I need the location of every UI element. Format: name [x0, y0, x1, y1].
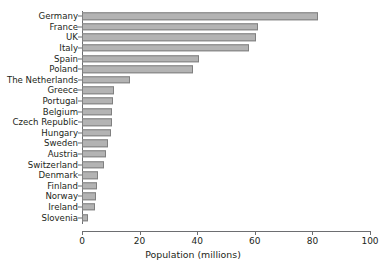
category-label: Germany	[39, 12, 79, 21]
bar	[82, 23, 258, 30]
category-label: Greece	[47, 86, 78, 95]
category-label: Finland	[47, 182, 78, 191]
bar	[82, 44, 249, 51]
bar	[82, 214, 88, 221]
x-axis-tick-label: 80	[307, 237, 318, 246]
bar-row: Denmark	[0, 170, 386, 181]
x-axis-tick	[140, 231, 141, 235]
category-label: Hungary	[41, 129, 78, 138]
bar-row: Portugal	[0, 96, 386, 107]
bar-row: Austria	[0, 149, 386, 160]
bar	[82, 55, 199, 62]
bar-row: Finland	[0, 181, 386, 192]
bar-row: The Netherlands	[0, 75, 386, 86]
bar-row: Czech Republic	[0, 117, 386, 128]
x-axis-tick-label: 40	[191, 237, 202, 246]
bar	[82, 182, 97, 189]
category-label: Denmark	[39, 171, 79, 180]
bar	[82, 172, 98, 179]
bar	[82, 66, 193, 73]
category-label: Spain	[54, 54, 78, 63]
x-axis-tick-label: 20	[134, 237, 145, 246]
category-label: Sweden	[44, 139, 78, 148]
bar	[82, 161, 104, 168]
category-label: Portugal	[42, 97, 78, 106]
category-label: Czech Republic	[13, 118, 78, 127]
bar-row: Greece	[0, 85, 386, 96]
bar	[82, 203, 95, 210]
x-axis-tick	[82, 231, 83, 235]
bar	[82, 119, 112, 126]
category-label: UK	[66, 33, 78, 42]
bar-row: Sweden	[0, 138, 386, 149]
x-axis-tick	[197, 231, 198, 235]
bar	[82, 34, 256, 41]
bar-row: Hungary	[0, 128, 386, 139]
category-label: Switzerland	[28, 160, 78, 169]
bar-row: Italy	[0, 43, 386, 54]
category-label: Poland	[49, 65, 78, 74]
bar-row: Spain	[0, 53, 386, 64]
bar	[82, 87, 114, 94]
category-label: Slovenia	[41, 213, 78, 222]
bar	[82, 129, 111, 136]
bar	[82, 108, 112, 115]
x-axis-tick-label: 0	[79, 237, 85, 246]
category-label: Norway	[45, 192, 78, 201]
bar-row: Belgium	[0, 106, 386, 117]
bar	[82, 193, 96, 200]
bar-row: Norway	[0, 191, 386, 202]
category-label: Austria	[48, 150, 78, 159]
x-axis-tick-label: 100	[361, 237, 378, 246]
x-axis-tick	[255, 231, 256, 235]
category-label: Belgium	[43, 107, 78, 116]
x-axis-tick	[312, 231, 313, 235]
bar-row: Poland	[0, 64, 386, 75]
bar	[82, 13, 318, 20]
x-axis-title: Population (millions)	[0, 250, 386, 259]
bar-row: Switzerland	[0, 159, 386, 170]
bar	[82, 97, 113, 104]
bar	[82, 140, 108, 147]
x-axis-tick	[370, 231, 371, 235]
bar-row: Ireland	[0, 202, 386, 213]
bar-row: Germany	[0, 11, 386, 22]
category-label: The Netherlands	[7, 76, 78, 85]
bar	[82, 76, 130, 83]
bar-row: France	[0, 22, 386, 33]
bar-row: Slovenia	[0, 212, 386, 223]
x-axis-tick-label: 60	[249, 237, 260, 246]
bar	[82, 150, 106, 157]
category-label: Italy	[59, 44, 78, 53]
bar-chart: GermanyFranceUKItalySpainPolandThe Nethe…	[0, 0, 386, 268]
category-label: France	[49, 23, 78, 32]
category-label: Ireland	[48, 203, 78, 212]
bar-rows: GermanyFranceUKItalySpainPolandThe Nethe…	[0, 11, 386, 223]
bar-row: UK	[0, 32, 386, 43]
